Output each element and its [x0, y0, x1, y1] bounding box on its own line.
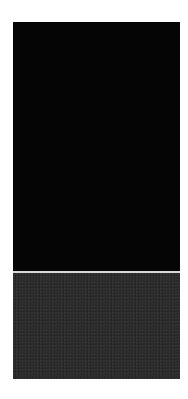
zoomed-inset-image: [13, 273, 180, 379]
deep-field-image: [13, 22, 180, 271]
